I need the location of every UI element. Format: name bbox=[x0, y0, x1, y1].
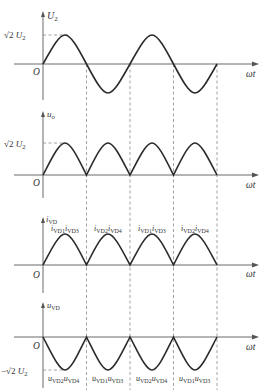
origin-label: O bbox=[33, 178, 40, 188]
y-axis-label: uVD bbox=[47, 300, 61, 311]
origin-label: O bbox=[33, 341, 40, 351]
panel-uo: uo √2 U2 O ωt bbox=[4, 109, 259, 198]
x-axis-arrow-icon bbox=[252, 335, 259, 340]
y-axis-arrow-icon bbox=[41, 11, 45, 17]
diagram-canvas: U2 √2 U2 O ωt uo √2 U2 O ωt iVD iVD1iVD3… bbox=[0, 0, 269, 392]
segment-label-3: iVD1iVD3 bbox=[138, 224, 166, 234]
segment-label-1: iVD1iVD3 bbox=[51, 224, 79, 234]
x-axis-label: ωt bbox=[246, 180, 256, 190]
panel-u2: U2 √2 U2 O ωt bbox=[4, 10, 259, 100]
segment-label-4: uVD1uVD3 bbox=[179, 374, 210, 384]
x-axis-label: ωt bbox=[246, 269, 256, 279]
origin-label: O bbox=[33, 270, 40, 280]
x-axis-label: ωt bbox=[246, 69, 256, 79]
segment-label-3: uVD2uVD4 bbox=[136, 374, 167, 384]
x-axis-label: ωt bbox=[246, 342, 256, 352]
origin-label: O bbox=[33, 67, 40, 77]
y-axis-label: U2 bbox=[47, 10, 58, 23]
x-axis-arrow-icon bbox=[252, 62, 259, 67]
peak-level-label: √2 U2 bbox=[4, 30, 25, 41]
panel-ivd: iVD iVD1iVD3 iVD2iVD4 iVD1iVD3 iVD2iVD4 … bbox=[14, 214, 259, 293]
segment-label-2: uVD1uVD3 bbox=[92, 374, 123, 384]
segment-label-4: iVD2iVD4 bbox=[181, 224, 209, 234]
y-axis-arrow-icon bbox=[41, 111, 45, 117]
peak-level-label: √2 U2 bbox=[4, 139, 25, 150]
rectifier-waveform-diagram: U2 √2 U2 O ωt uo √2 U2 O ωt iVD iVD1iVD3… bbox=[0, 0, 269, 392]
y-axis-arrow-icon bbox=[41, 217, 45, 223]
y-axis-label: uo bbox=[47, 109, 56, 120]
x-axis-arrow-icon bbox=[252, 263, 259, 268]
y-axis-arrow-icon bbox=[41, 302, 45, 308]
segment-label-2: iVD2iVD4 bbox=[94, 224, 122, 234]
diode-current-curve bbox=[43, 234, 217, 265]
segment-label-1: uVD2uVD4 bbox=[48, 374, 79, 384]
trough-level-label: −√2 U2 bbox=[1, 366, 28, 377]
x-axis-arrow-icon bbox=[252, 173, 259, 178]
